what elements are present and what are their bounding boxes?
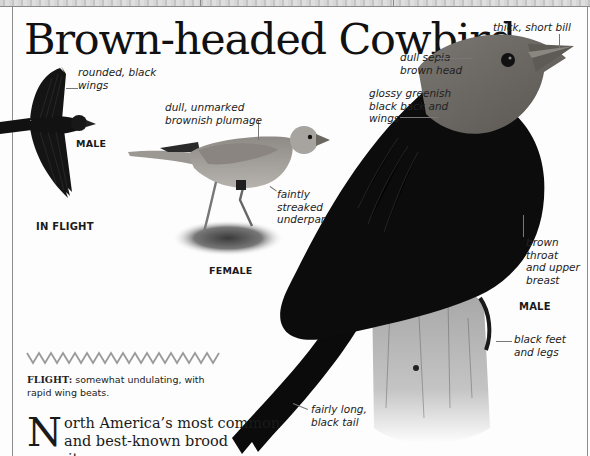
wings-leader-line: [66, 88, 78, 89]
in-flight-caption: IN FLIGHT: [36, 221, 94, 232]
throat-annotation: brown throat and upper breast: [526, 236, 580, 286]
back-annotation: glossy greenish black back and wings: [369, 87, 451, 125]
tail-annotation: fairly long, black tail: [311, 403, 367, 428]
bill-leader-line: [559, 34, 560, 48]
head-annotation: dull sepia- brown head: [400, 51, 462, 76]
back-leader-line: [400, 117, 438, 118]
wings-annotation: rounded, black wings: [78, 66, 156, 91]
body-line-1: orth America’s most common: [27, 414, 297, 432]
flight-label: FLIGHT:: [27, 374, 72, 385]
male-caption: MALE: [519, 301, 551, 312]
flight-male-caption: MALE: [76, 138, 106, 149]
feet-leader-line: [496, 341, 512, 342]
drop-cap: N: [27, 415, 62, 449]
feet-annotation: black feet and legs: [514, 333, 566, 358]
top-decorative-strip: [0, 0, 590, 7]
body-line-2: and best-known brood parasite,: [27, 432, 297, 456]
strip-divider: [393, 0, 394, 7]
head-leader-line: [436, 58, 472, 59]
page-border-right: [587, 7, 588, 456]
flight-pattern-zigzag-icon: [27, 351, 219, 365]
flight-description: FLIGHT: somewhat undulating, with rapid …: [27, 373, 227, 399]
body-paragraph: N orth America’s most common and best-kn…: [27, 414, 297, 456]
strip-divider: [200, 0, 201, 7]
throat-leader-line: [523, 215, 524, 237]
bill-annotation: thick, short bill: [493, 21, 571, 34]
